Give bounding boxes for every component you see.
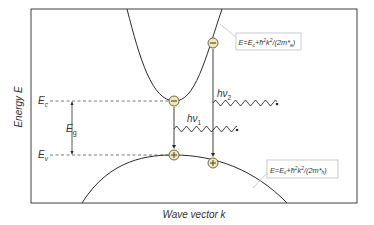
transition-2-arrow-head	[211, 153, 215, 157]
y-axis-label: Energy E	[13, 86, 24, 127]
conduction-band-equation: E=Ec+ħ2k2/(2m*e)	[239, 37, 296, 48]
eg-arrow-head-down	[71, 151, 74, 155]
conduction-band-curve	[127, 9, 222, 101]
x-axis-label: Wave vector k	[162, 209, 226, 220]
conduction-eq-leader	[220, 24, 237, 38]
electron-2	[208, 38, 218, 48]
photon-2-wave	[213, 101, 277, 106]
eg-label: Eg	[66, 123, 77, 137]
electron-1	[169, 96, 179, 106]
photon-1-wave	[174, 127, 237, 132]
eg-arrow-head-up	[71, 101, 74, 105]
hole-2	[208, 158, 218, 168]
photon-2-label: hν2	[217, 88, 232, 101]
valence-eq-leader	[253, 172, 268, 188]
photon-2-tip	[276, 103, 279, 106]
valence-band-equation: E=Ec+ħ2k2/(2m*h)	[270, 165, 327, 176]
band-diagram: E=Ec+ħ2k2/(2m*e) E=Ec+ħ2k2/(2m*h) Ec Ev …	[0, 0, 374, 225]
ec-label: Ec	[38, 95, 49, 108]
photon-1-label: hν1	[187, 113, 202, 126]
photon-1-tip	[236, 129, 239, 132]
valence-band-curve	[82, 155, 287, 203]
hole-1	[169, 150, 179, 160]
transition-1-arrow-head	[172, 145, 176, 149]
ev-label: Ev	[38, 149, 49, 162]
